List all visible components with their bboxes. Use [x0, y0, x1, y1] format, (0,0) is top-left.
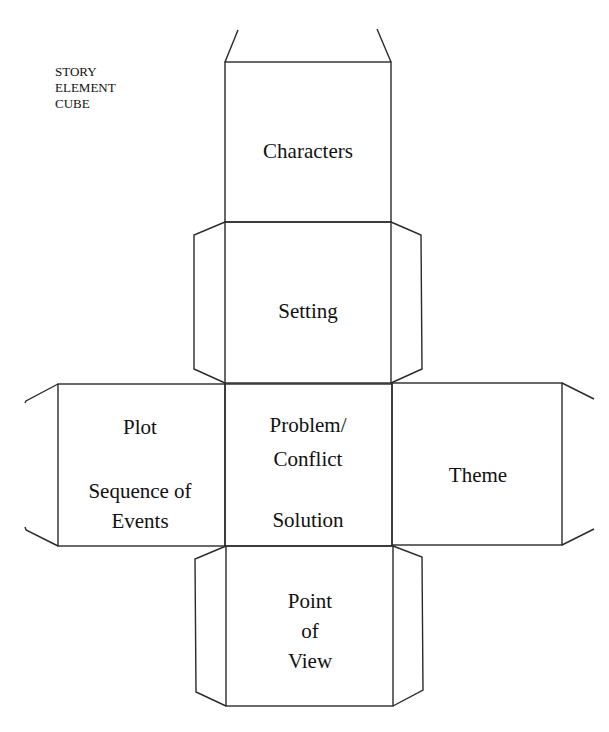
tab-right-top	[562, 383, 594, 399]
face-problem-label: Problem/	[270, 413, 347, 437]
face-problem-conflict: Problem/ Conflict Solution	[225, 384, 392, 546]
tab-left-top	[25, 384, 58, 403]
tab-top-right	[377, 29, 391, 62]
tab-top-left	[225, 30, 238, 62]
tab-pov-right	[393, 546, 423, 706]
face-problem-label: Solution	[272, 508, 344, 532]
face-plot-label: Plot	[123, 415, 157, 439]
face-characters: Characters	[225, 29, 391, 222]
face-plot: Plot Sequence of Events	[25, 384, 225, 546]
tab-left-bottom	[25, 527, 58, 546]
tab-pov-left	[195, 546, 226, 706]
face-plot-label: Sequence of	[88, 479, 191, 503]
face-setting-label: Setting	[278, 299, 338, 323]
tab-right-bottom	[562, 529, 594, 545]
face-point-of-view: Point of View	[195, 546, 423, 706]
tab-setting-right	[391, 222, 422, 383]
face-plot-label: Events	[111, 509, 168, 533]
face-theme: Theme	[392, 383, 594, 545]
face-pov-label: Point	[288, 589, 333, 613]
face-pov-label: View	[288, 649, 333, 673]
face-pov-label: of	[301, 619, 319, 643]
face-characters-label: Characters	[263, 139, 353, 163]
face-problem-label: Conflict	[274, 447, 343, 471]
cube-net-diagram: Characters Setting Plot Sequence of Even…	[0, 0, 609, 732]
face-theme-label: Theme	[449, 463, 507, 487]
face-setting: Setting	[194, 222, 422, 383]
tab-setting-left	[194, 222, 225, 383]
